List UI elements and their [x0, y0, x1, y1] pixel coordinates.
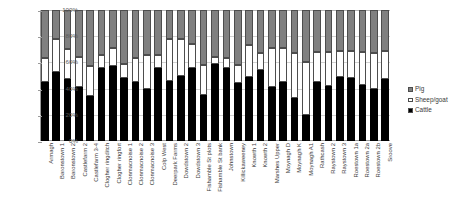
bar-segment-cattle [188, 68, 196, 141]
bar [200, 10, 208, 141]
bar-segment-sheep-goat [200, 65, 208, 95]
bar-segment-pig [381, 10, 389, 51]
x-axis-tick-label: Fishamble St plots [206, 143, 213, 217]
legend-item: Sheep/goat [408, 95, 448, 106]
bar-segment-cattle [154, 68, 162, 141]
legend-item: Pig [408, 84, 448, 95]
legend-swatch-icon [408, 108, 413, 113]
bar-segment-cattle [257, 70, 265, 141]
bar-segment-sheep-goat [268, 48, 276, 87]
bar-segment-cattle [336, 77, 344, 141]
bar-segment-cattle [370, 89, 378, 141]
x-axis-tick-label: Knowth 1 [251, 143, 258, 217]
x-axis-tick-label: Fishamble St bank [217, 143, 224, 217]
bar-segment-sheep-goat [291, 53, 299, 98]
bar-segment-pig [98, 10, 106, 55]
legend-swatch-icon [408, 98, 413, 103]
x-axis-tick-label: Moynagh A1 [308, 143, 315, 217]
bar [234, 10, 242, 141]
bar-segment-cattle [268, 87, 276, 141]
bar [188, 10, 196, 141]
plot-area [40, 10, 390, 141]
bar-segment-sheep-goat [313, 52, 321, 82]
bar-segment-pig [370, 10, 378, 53]
bar-segment-sheep-goat [359, 52, 367, 85]
x-axis-tick-label: Clonmacnoise 2 [138, 143, 145, 217]
bar-segment-cattle [291, 98, 299, 141]
x-axis-tick-label: Armagh [48, 143, 55, 217]
bar [86, 10, 94, 141]
bar [257, 10, 265, 141]
x-axis-tick-label: Deerpark Farms [172, 143, 179, 217]
bar-segment-sheep-goat [325, 52, 333, 86]
bar-segment-sheep-goat [302, 62, 310, 114]
x-axis-tick-label: Dowdstown 2 [183, 143, 190, 217]
bar-segment-sheep-goat [109, 48, 117, 66]
bar-segment-pig [64, 10, 72, 49]
bar [291, 10, 299, 141]
bar-segment-pig [177, 10, 185, 39]
x-axis-tick-label: Castlefarm 2 [82, 143, 89, 217]
y-axis-tick-label: 100% [18, 7, 78, 13]
bar-segment-sheep-goat [98, 55, 106, 68]
legend-item-label: Sheep/goat [415, 95, 448, 106]
bar-segment-sheep-goat [381, 51, 389, 80]
bar [166, 10, 174, 141]
bar-segment-cattle [325, 86, 333, 141]
bar-segment-cattle [200, 95, 208, 141]
bar [268, 10, 276, 141]
bar-segment-cattle [132, 82, 140, 141]
y-axis-tick-mark [38, 112, 42, 118]
x-axis-tick-label: Roestown 2b [375, 143, 382, 217]
bar-segment-pig [359, 10, 367, 52]
x-axis-tick-label: Colp West [161, 143, 168, 217]
bar [143, 10, 151, 141]
bar-segment-sheep-goat [166, 39, 174, 81]
bar [109, 10, 117, 141]
bar-segment-pig [200, 10, 208, 65]
bar-segment-pig [166, 10, 174, 39]
bar-segment-pig [120, 10, 128, 64]
x-axis-tick-label: Raystown 3 [341, 143, 348, 217]
bar-segment-sheep-goat [177, 39, 185, 76]
bar-segment-sheep-goat [188, 44, 196, 68]
bar-segment-pig [234, 10, 242, 65]
bar [336, 10, 344, 141]
bar [279, 10, 287, 141]
bar-segment-cattle [177, 76, 185, 142]
bar-segment-cattle [359, 85, 367, 141]
stacked-bar-chart: 0%20%40%60%80%100% ArmaghBaronstown 1Bar… [0, 0, 473, 220]
bar [347, 10, 355, 141]
bar-segment-cattle [109, 66, 117, 141]
bar-segment-sheep-goat [120, 64, 128, 78]
y-axis-tick-label: 60% [18, 59, 78, 65]
bar-segment-pig [211, 10, 219, 57]
bar-segment-cattle [381, 79, 389, 141]
bar [325, 10, 333, 141]
bar-segment-pig [325, 10, 333, 52]
y-axis-tick-mark [38, 33, 42, 39]
bar [132, 10, 140, 141]
bar-segment-cattle [302, 115, 310, 141]
bar-segment-cattle [143, 89, 151, 141]
x-axis-tick-label: Knowth 2 [262, 143, 269, 217]
y-axis-tick-label: 40% [18, 86, 78, 92]
bar-segment-cattle [120, 78, 128, 141]
bar-segment-pig [291, 10, 299, 53]
bar-segment-pig [302, 10, 310, 62]
bar [313, 10, 321, 141]
y-axis-tick-mark [38, 59, 42, 65]
x-axis-tick-label: Clonmacnoise 3 [149, 143, 156, 217]
bar-segment-sheep-goat [52, 39, 60, 72]
bar-group [40, 10, 390, 141]
bar-segment-pig [86, 10, 94, 66]
bar-segment-pig [223, 10, 231, 58]
x-axis-tick-label: Marshes Upper [274, 143, 281, 217]
bar [302, 10, 310, 141]
legend-item-label: Pig [415, 84, 424, 95]
x-axis-tick-label: Baronstown 2 [70, 143, 77, 217]
bar [52, 10, 60, 141]
bar-segment-cattle [313, 82, 321, 141]
bar-segment-cattle [347, 78, 355, 141]
x-axis-tick-label: Johnstown [228, 143, 235, 217]
